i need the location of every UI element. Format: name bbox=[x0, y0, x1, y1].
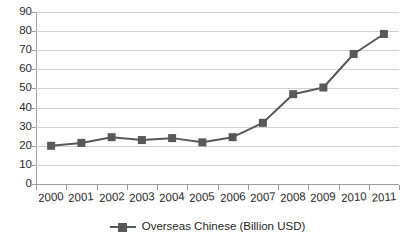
chart-legend: Overseas Chinese (Billion USD) bbox=[0, 216, 415, 238]
data-point-marker bbox=[229, 133, 237, 141]
line-chart: 0102030405060708090 20002001200220032004… bbox=[0, 0, 415, 247]
data-point-marker bbox=[108, 133, 116, 141]
data-point-marker bbox=[259, 119, 267, 127]
data-point-marker bbox=[289, 90, 297, 98]
x-axis-label: 2003 bbox=[129, 191, 155, 204]
x-axis-label: 2009 bbox=[310, 191, 336, 204]
x-axis-label: 2000 bbox=[38, 191, 64, 204]
x-axis-label: 2011 bbox=[371, 191, 396, 204]
legend-marker-icon bbox=[110, 221, 136, 233]
legend-label: Overseas Chinese (Billion USD) bbox=[142, 221, 306, 233]
y-axis-tick-marks bbox=[0, 12, 36, 185]
x-axis-label: 2004 bbox=[159, 191, 185, 204]
data-point-marker bbox=[380, 30, 388, 38]
x-axis-label: 2010 bbox=[340, 191, 366, 204]
data-point-marker bbox=[77, 139, 85, 147]
series-overseas-chinese bbox=[36, 12, 399, 184]
x-axis-label: 2006 bbox=[219, 191, 245, 204]
series-line bbox=[51, 34, 384, 146]
x-axis-label: 2001 bbox=[68, 191, 94, 204]
data-point-marker bbox=[319, 83, 327, 91]
data-point-marker bbox=[168, 134, 176, 142]
x-axis-label: 2007 bbox=[250, 191, 276, 204]
data-point-marker bbox=[138, 136, 146, 144]
plot-area bbox=[36, 12, 399, 184]
x-axis-label: 2008 bbox=[280, 191, 306, 204]
x-axis-tick bbox=[399, 185, 400, 190]
data-point-marker bbox=[198, 138, 206, 146]
x-axis-label: 2005 bbox=[189, 191, 215, 204]
data-point-marker bbox=[47, 142, 55, 150]
x-axis-label: 2002 bbox=[98, 191, 124, 204]
data-point-marker bbox=[350, 50, 358, 58]
x-axis-tick-labels: 2000200120022003200420052006200720082009… bbox=[36, 190, 399, 212]
